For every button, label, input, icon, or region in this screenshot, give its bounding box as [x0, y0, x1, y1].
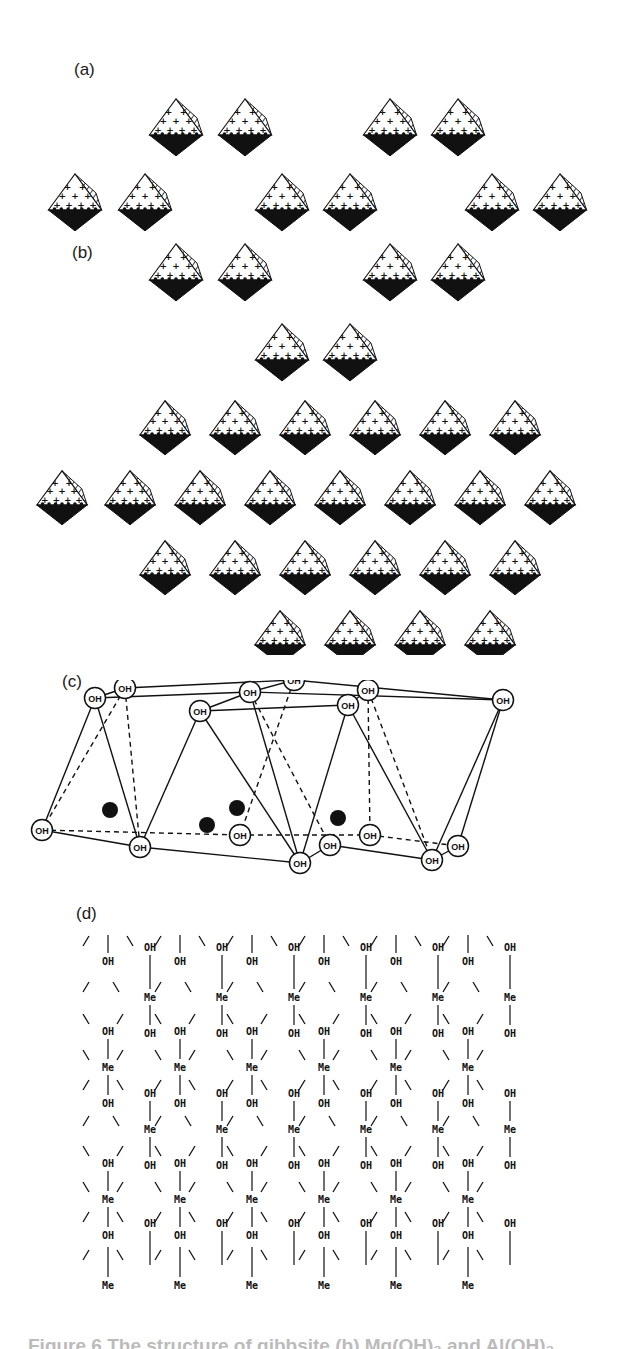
- hydroxyl-node: OH: [493, 690, 514, 711]
- hydroxyl-label: OH: [144, 942, 156, 953]
- hydroxyl-node: OH: [190, 701, 211, 722]
- hydroxyl-label: OH: [504, 1218, 516, 1229]
- hydroxyl-label: OH: [174, 1230, 186, 1241]
- svg-text:OH: OH: [496, 696, 510, 706]
- metal-label: Me: [504, 992, 516, 1003]
- octahedron-icon: +++++++++: [465, 174, 518, 231]
- hydroxyl-label: OH: [144, 1088, 156, 1099]
- octahedron-icon: +++++++++: [420, 541, 470, 595]
- octahedron-icon: +++++++++: [255, 324, 308, 381]
- hydroxyl-node: OH: [115, 680, 136, 699]
- octahedron-icon: +++++++++: [255, 174, 308, 231]
- octahedron-icon: +++++++++: [325, 611, 375, 655]
- svg-text:OH: OH: [293, 859, 307, 869]
- panel-a-diagram: ++++++++++++++++++++++++++++++++++++++++…: [0, 60, 623, 390]
- hydroxyl-node: OH: [230, 825, 251, 846]
- metal-label: Me: [174, 1062, 186, 1073]
- hydroxyl-label: OH: [360, 942, 372, 953]
- cation-dot-icon: [199, 817, 215, 833]
- svg-text:OH: OH: [341, 701, 355, 711]
- hydroxyl-label: OH: [432, 1160, 444, 1171]
- hydroxyl-label: OH: [246, 1230, 258, 1241]
- metal-label: Me: [174, 1194, 186, 1205]
- metal-label: Me: [318, 1194, 330, 1205]
- hydroxyl-label: OH: [144, 1218, 156, 1229]
- hydroxyl-label: OH: [174, 1158, 186, 1169]
- octahedron-icon: +++++++++: [218, 99, 271, 156]
- hydroxyl-label: OH: [504, 1088, 516, 1099]
- metal-label: Me: [432, 992, 444, 1003]
- octahedron-icon: +++++++++: [210, 541, 260, 595]
- metal-label: Me: [174, 1280, 186, 1291]
- hydroxyl-node: OH: [358, 680, 379, 701]
- cation-dot-icon: [330, 810, 346, 826]
- metal-label: Me: [390, 1280, 402, 1291]
- hydroxyl-label: OH: [504, 1028, 516, 1039]
- octahedron-icon: +++++++++: [490, 541, 540, 595]
- hydroxyl-node: OH: [284, 680, 305, 691]
- hydroxyl-label: OH: [288, 1028, 300, 1039]
- metal-label: Me: [216, 992, 228, 1003]
- svg-text:OH: OH: [233, 831, 247, 841]
- svg-text:OH: OH: [361, 686, 375, 696]
- svg-text:OH: OH: [133, 843, 147, 853]
- hydroxyl-node: OH: [422, 850, 443, 871]
- metal-label: Me: [144, 1124, 156, 1135]
- octahedron-icon: +++++++++: [175, 471, 225, 525]
- octahedron-icon: +++++++++: [323, 324, 376, 381]
- hydroxyl-label: OH: [462, 1026, 474, 1037]
- cation-dot-icon: [102, 802, 118, 818]
- metal-label: Me: [462, 1062, 474, 1073]
- hydroxyl-label: OH: [504, 1160, 516, 1171]
- octahedron-icon: +++++++++: [363, 99, 416, 156]
- svg-text:OH: OH: [363, 831, 377, 841]
- metal-label: Me: [288, 1124, 300, 1135]
- octahedron-icon: +++++++++: [210, 401, 260, 455]
- svg-text:OH: OH: [287, 680, 301, 686]
- hydroxyl-label: OH: [390, 1158, 402, 1169]
- octahedron-icon: +++++++++: [385, 471, 435, 525]
- metal-label: Me: [504, 1124, 516, 1135]
- octahedron-icon: +++++++++: [363, 244, 416, 301]
- metal-label: Me: [288, 992, 300, 1003]
- hydroxyl-label: OH: [216, 1160, 228, 1171]
- svg-text:OH: OH: [451, 842, 465, 852]
- octahedron-icon: +++++++++: [315, 471, 365, 525]
- octahedron-icon: +++++++++: [465, 611, 515, 655]
- hydroxyl-node: OH: [85, 688, 106, 709]
- octahedron-icon: +++++++++: [533, 174, 586, 231]
- octahedron-icon: +++++++++: [105, 471, 155, 525]
- hydroxyl-label: OH: [318, 1158, 330, 1169]
- octahedron-icon: +++++++++: [118, 174, 171, 231]
- octahedron-icon: +++++++++: [280, 401, 330, 455]
- octahedron-icon: +++++++++: [255, 611, 305, 655]
- svg-text:OH: OH: [193, 707, 207, 717]
- panel-c-diagram: OHOHOHOHOHOHOHOHOHOHOHOHOHOHOHOH: [0, 680, 623, 880]
- hydroxyl-node: OH: [338, 695, 359, 716]
- hydroxyl-label: OH: [174, 1026, 186, 1037]
- figure-caption: Figure 6 The structure of gibbsite (b) M…: [28, 1333, 554, 1349]
- octahedron-icon: +++++++++: [323, 174, 376, 231]
- octahedron-icon: +++++++++: [37, 471, 87, 525]
- hydroxyl-label: OH: [246, 956, 258, 967]
- metal-label: Me: [102, 1194, 114, 1205]
- hydroxyl-label: OH: [360, 1218, 372, 1229]
- hydroxyl-label: OH: [390, 956, 402, 967]
- hydroxyl-label: OH: [246, 1098, 258, 1109]
- svg-text:OH: OH: [118, 684, 132, 694]
- hydroxyl-label: OH: [318, 1230, 330, 1241]
- hydroxyl-label: OH: [432, 942, 444, 953]
- metal-label: Me: [432, 1124, 444, 1135]
- hydroxyl-node: OH: [290, 853, 311, 874]
- metal-label: Me: [462, 1194, 474, 1205]
- hydroxyl-label: OH: [432, 1028, 444, 1039]
- hydroxyl-label: OH: [246, 1158, 258, 1169]
- hydroxyl-label: OH: [174, 1098, 186, 1109]
- octahedron-icon: +++++++++: [218, 244, 271, 301]
- hydroxyl-label: OH: [246, 1026, 258, 1037]
- octahedron-icon: +++++++++: [140, 541, 190, 595]
- hydroxyl-label: OH: [432, 1218, 444, 1229]
- octahedron-icon: +++++++++: [149, 244, 202, 301]
- octahedron-icon: +++++++++: [431, 99, 484, 156]
- hydroxyl-label: OH: [288, 1160, 300, 1171]
